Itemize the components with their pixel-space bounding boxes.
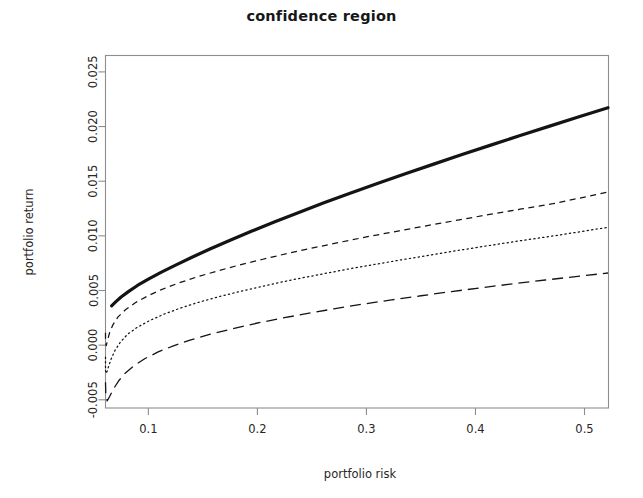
x-axis-label: portfolio risk [324,467,397,481]
chart-title: confidence region [246,8,396,24]
x-tick-label: 0.5 [575,422,593,436]
chart-canvas: confidence region -0.0050.0000.0050.0100… [0,0,643,498]
y-tick-label: 0.020 [87,110,101,143]
x-tick-label: 0.1 [139,422,157,436]
x-tick-label: 0.2 [248,422,266,436]
y-tick-label: 0.025 [87,55,101,88]
y-axis-label: portfolio return [22,189,36,276]
y-tick-label: 0.010 [87,219,101,252]
y-tick-label: 0.015 [87,165,101,198]
x-tick-label: 0.3 [357,422,375,436]
confidence-region-chart: confidence region -0.0050.0000.0050.0100… [0,0,643,498]
x-tick-label: 0.4 [466,422,484,436]
y-tick-label: 0.000 [87,329,101,362]
y-tick-label: -0.005 [87,381,101,418]
y-tick-label: 0.005 [87,274,101,307]
